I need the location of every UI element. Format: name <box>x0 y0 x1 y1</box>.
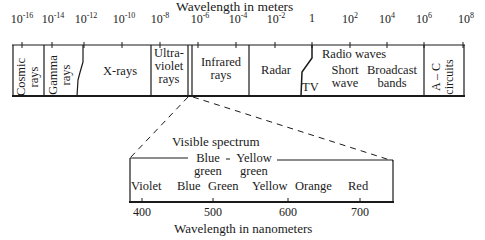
diagram-lines <box>0 0 485 240</box>
color-yellow: Yellow <box>252 180 288 193</box>
tick-label: 10-6 <box>191 12 210 25</box>
tick-label: 10-8 <box>151 12 170 25</box>
band-cosmic-rays: Cosmicrays <box>15 50 43 104</box>
band-short-wave: Shortwave <box>327 64 363 90</box>
band-radar: Radar <box>250 64 302 77</box>
band-tv: TV <box>302 81 319 94</box>
tick-label: 10-12 <box>75 12 98 25</box>
band-gamma-rays: Gammarays <box>47 48 75 102</box>
electromagnetic-spectrum-diagram: Wavelength in meters 10-16 10-14 10-12 1… <box>0 0 485 240</box>
nm-tick-700: 700 <box>351 206 369 218</box>
tick-label: 106 <box>416 12 432 25</box>
color-violet: Violet <box>131 180 162 193</box>
color-green: Green <box>208 180 239 193</box>
tick-label: 10-16 <box>11 12 34 25</box>
band-radio-waves: Radio waves <box>322 48 386 61</box>
tick-label: 10-2 <box>267 12 286 25</box>
color-yellow-green: Yellowgreen <box>232 152 276 178</box>
nm-axis-title: Wavelength in nanometers <box>174 222 312 235</box>
tick-label: 10-10 <box>113 12 136 25</box>
color-blue-green: Bluegreen <box>190 152 226 178</box>
tick-label: 1 <box>309 12 315 24</box>
tick-label: 102 <box>342 12 358 25</box>
nm-tick-400: 400 <box>133 206 151 218</box>
band-ac-circuits: A – Ccircuits <box>430 47 458 107</box>
color-red: Red <box>348 180 368 193</box>
color-orange: Orange <box>295 180 332 193</box>
band-x-rays: X-rays <box>90 65 150 78</box>
nm-tick-600: 600 <box>279 206 297 218</box>
color-blue: Blue <box>177 180 201 193</box>
nm-tick-500: 500 <box>204 206 222 218</box>
band-infrared: Infraredrays <box>193 56 249 82</box>
band-broadcast: Broadcastbands <box>362 64 422 90</box>
tick-label: 104 <box>379 12 395 25</box>
visible-spectrum-title: Visible spectrum <box>172 135 260 148</box>
tick-label: 108 <box>458 12 474 25</box>
tick-label: 10-14 <box>42 12 65 25</box>
band-ultraviolet: Ultra-violetrays <box>150 47 188 86</box>
tick-label: 10-4 <box>229 12 248 25</box>
